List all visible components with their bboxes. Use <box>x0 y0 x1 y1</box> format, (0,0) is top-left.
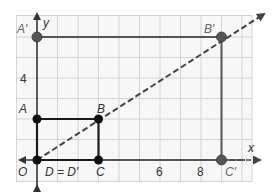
label-a: A <box>18 102 27 116</box>
label-d-equals-d-prime: D = D′ <box>45 165 79 179</box>
point-d <box>33 156 42 165</box>
label-a-prime: A′ <box>16 22 28 36</box>
tick-y-4: 4 <box>20 72 27 86</box>
x-axis-label: x <box>247 141 255 155</box>
point-c-prime <box>217 155 227 165</box>
label-c: C <box>96 165 105 179</box>
point-c <box>94 156 103 165</box>
tick-x-8: 8 <box>197 165 204 179</box>
point-a-prime <box>32 32 42 42</box>
label-c-prime: C′ <box>225 165 237 179</box>
origin-label: O <box>18 165 27 179</box>
point-a <box>33 115 42 124</box>
coordinate-plane: A′ y B′ A B O D = D′ C C′ x 4 6 8 <box>0 0 273 194</box>
label-b: B <box>97 102 105 116</box>
point-b-prime <box>217 32 227 42</box>
tick-x-6: 6 <box>156 165 163 179</box>
label-b-prime: B′ <box>204 22 215 36</box>
y-axis-label: y <box>42 16 50 30</box>
